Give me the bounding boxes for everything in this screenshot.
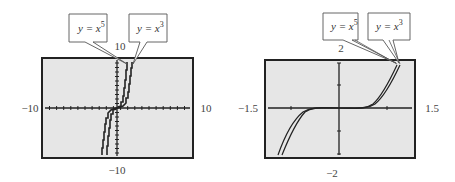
left-graph: y = x5 y = x3 10 −10 10 −10 bbox=[21, 14, 212, 176]
left-ymax-label: 10 bbox=[115, 40, 127, 52]
right-ymin-label: −2 bbox=[326, 167, 338, 179]
right-callout-x3-label: y = x3 bbox=[375, 18, 403, 32]
right-xmin-label: −1.5 bbox=[238, 102, 258, 114]
figure: y = x5 y = x3 10 −10 10 −10 y = x5 bbox=[0, 0, 455, 182]
left-callout-x5-label: y = x5 bbox=[77, 20, 105, 34]
left-callout-x3-label: y = x3 bbox=[136, 20, 164, 34]
right-xmax-label: 1.5 bbox=[425, 102, 439, 114]
right-graph: y = x5 y = x3 2 −1.5 1.5 −2 bbox=[238, 13, 439, 179]
right-callout-x5-label: y = x5 bbox=[330, 18, 358, 32]
left-callout-x3: y = x3 bbox=[129, 14, 167, 64]
left-ymin-label: −10 bbox=[108, 164, 126, 176]
left-xmin-label: −10 bbox=[21, 102, 39, 114]
left-callout-x5: y = x5 bbox=[69, 14, 127, 64]
right-callout-x3: y = x3 bbox=[368, 13, 410, 64]
right-ymax-label: 2 bbox=[338, 42, 344, 54]
left-xmax-label: 10 bbox=[201, 102, 213, 114]
